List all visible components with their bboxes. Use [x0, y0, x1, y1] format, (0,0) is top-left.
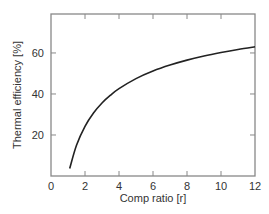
x-tick-label: 4	[116, 180, 122, 192]
x-tick-label: 10	[215, 180, 227, 192]
x-tick-label: 8	[184, 180, 190, 192]
line-chart: 024681012 204060 Comp ratio [r] Thermal …	[0, 0, 269, 214]
x-tick-label: 0	[48, 180, 54, 192]
x-tick-label: 6	[150, 180, 156, 192]
y-tick-labels: 204060	[32, 47, 44, 141]
y-tick-label: 60	[32, 47, 44, 59]
x-axis-label: Comp ratio [r]	[120, 192, 187, 204]
chart: 024681012 204060 Comp ratio [r] Thermal …	[0, 0, 269, 214]
x-tick-label: 12	[249, 180, 261, 192]
x-tick-labels: 024681012	[48, 180, 261, 192]
x-tick-label: 2	[82, 180, 88, 192]
plot-frame	[51, 14, 255, 176]
axis-ticks	[51, 14, 255, 176]
efficiency-curve	[70, 47, 255, 169]
y-tick-label: 20	[32, 129, 44, 141]
y-tick-label: 40	[32, 88, 44, 100]
y-axis-label: Thermal efficiency [%]	[11, 41, 23, 149]
